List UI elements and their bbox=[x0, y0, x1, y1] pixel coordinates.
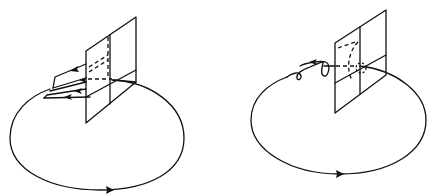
left-plane-horizontal-line bbox=[86, 70, 136, 97]
right-orbit-arrow-icon bbox=[336, 170, 344, 178]
left-orbit bbox=[10, 80, 184, 190]
left-dashed-line-1 bbox=[89, 55, 108, 67]
left-dashed-line-2 bbox=[89, 60, 108, 72]
diagram-canvas bbox=[0, 0, 432, 195]
left-fan-arrow-icon-3 bbox=[74, 88, 82, 94]
right-spiral-trajectory bbox=[287, 61, 335, 79]
left-fan-arrow-icon-1 bbox=[70, 66, 79, 72]
left-orbit-arrow-icon bbox=[106, 186, 114, 194]
left-panel bbox=[10, 17, 184, 194]
right-orbit bbox=[251, 66, 426, 174]
left-section-plane bbox=[86, 17, 136, 123]
left-fan-upper bbox=[53, 64, 86, 88]
right-panel bbox=[251, 10, 426, 178]
